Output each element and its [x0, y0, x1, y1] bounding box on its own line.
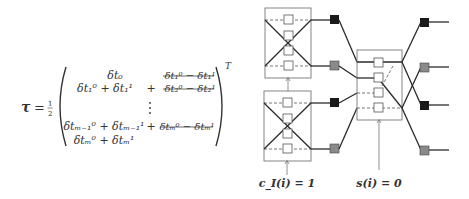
- dark-node: [330, 98, 339, 107]
- gray-node: [330, 144, 339, 153]
- right-parenthesis: [216, 67, 222, 146]
- row-1-left: δt₁⁰ + δt₁¹: [77, 82, 133, 95]
- row-4-left: δtₘ⁰ + δtₘ¹: [74, 134, 135, 147]
- gray-node: [330, 61, 339, 70]
- center-switch-box: [357, 50, 402, 120]
- slot: [284, 46, 293, 55]
- row-3-op: +: [146, 120, 155, 133]
- svg-text:1: 1: [48, 100, 52, 108]
- left-top-switch-box: [265, 8, 311, 78]
- row-3-left: δtₘ₋₁⁰ + δtₘ₋₁¹: [63, 120, 144, 133]
- slot: [374, 103, 383, 112]
- transpose-symbol: T: [225, 61, 232, 71]
- row-0-right: δt₁⁰ − δt₁¹: [165, 70, 216, 81]
- slot: [283, 114, 292, 123]
- tau-symbol: τ: [21, 99, 31, 115]
- slot: [374, 88, 383, 97]
- slot: [283, 129, 292, 138]
- vertical-dots: [149, 102, 151, 114]
- left-bottom-switch-box: [264, 91, 311, 161]
- dark-node: [330, 15, 339, 24]
- row-0-left: δt₀: [107, 69, 123, 82]
- slot: [284, 31, 293, 40]
- equals-sign: =: [34, 100, 45, 115]
- gray-node: [420, 63, 429, 72]
- slot: [284, 15, 293, 24]
- one-half-fraction: 1 2: [48, 100, 53, 118]
- switch-network-diagram: .box { fill:none; stroke:#777; stroke-wi…: [240, 0, 469, 199]
- svg-text:2: 2: [48, 110, 52, 118]
- dark-node: [420, 101, 429, 110]
- slot: [374, 58, 383, 67]
- slot: [283, 98, 292, 107]
- row-1-right: δt₂⁰ − δt₂¹: [165, 83, 216, 94]
- control-label-cI: c_I(i) = 1: [259, 177, 315, 191]
- row-1-op: +: [146, 82, 155, 95]
- tau-equation: τ = 1 2 T δt₀ δt₁⁰ − δt₁¹ δt₁⁰ + δt₁¹ + …: [0, 0, 240, 199]
- gray-node: [420, 146, 429, 155]
- slot: [374, 73, 383, 82]
- selector-label-s: s(i) = 0: [356, 177, 402, 190]
- row-3-right: δtₘ⁰ − δtₘ¹: [159, 121, 214, 132]
- left-parenthesis: [60, 67, 66, 146]
- slot: [283, 144, 292, 153]
- dark-node: [420, 18, 429, 27]
- slot: [284, 61, 293, 70]
